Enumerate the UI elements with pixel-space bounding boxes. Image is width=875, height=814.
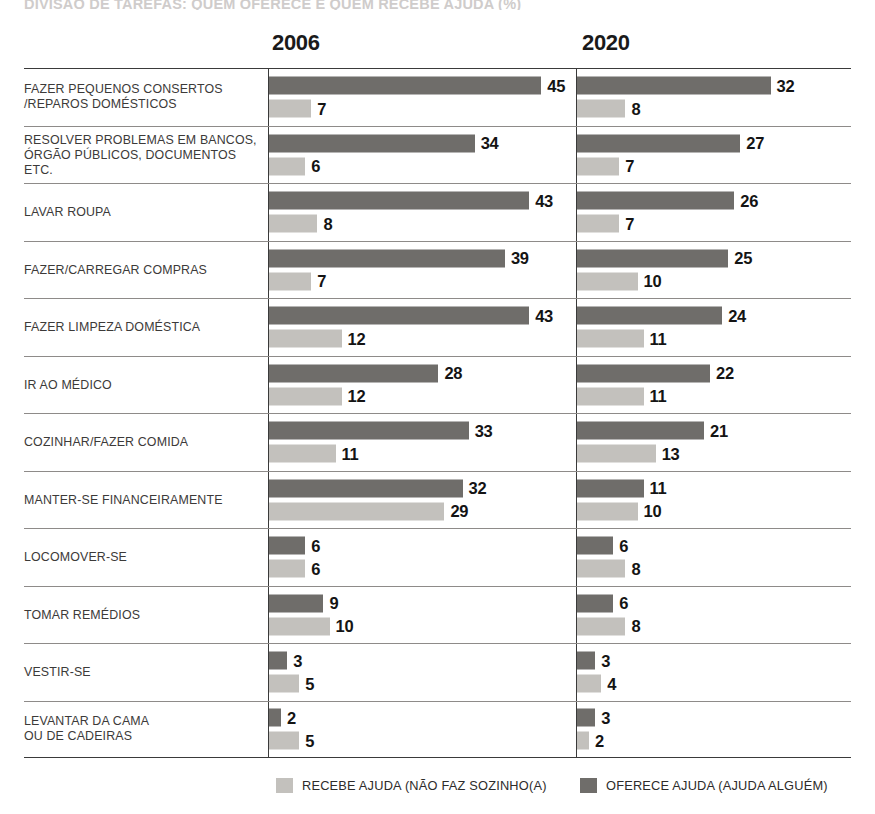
chart-row: FAZER PEQUENOS CONSERTOS/REPAROS DOMÉSTI…	[24, 68, 851, 126]
bar-line-offer: 34	[269, 134, 577, 152]
panel-2020: 68	[576, 529, 852, 586]
bar-offer-2006	[269, 77, 541, 95]
legend-label-offer: OFERECE AJUDA (AJUDA ALGUÉM)	[606, 778, 828, 793]
bar-group-2006: 457	[269, 77, 577, 118]
panel-2020: 2411	[576, 299, 852, 356]
bar-value-offer-2020: 22	[716, 364, 734, 383]
chart-row: LAVAR ROUPA438267	[24, 183, 851, 241]
bar-value-receive-2020: 10	[644, 502, 662, 521]
panel-2006: 457	[268, 69, 577, 126]
bar-line-offer: 28	[269, 364, 577, 382]
bar-group-2006: 2812	[269, 364, 577, 405]
bar-offer-2020	[577, 479, 644, 497]
panel-2006: 438	[268, 184, 577, 241]
bar-value-offer-2020: 21	[710, 421, 728, 440]
panel-2006: 3229	[268, 472, 577, 529]
bar-receive-2006	[269, 502, 444, 520]
bar-receive-2006	[269, 100, 311, 118]
bar-line-offer: 21	[577, 422, 852, 440]
bar-line-offer: 32	[577, 77, 852, 95]
row-label: VESTIR-SE	[24, 665, 264, 680]
bar-offer-2020	[577, 134, 740, 152]
bar-line-receive: 12	[269, 387, 577, 405]
panel-2006: 35	[268, 644, 577, 701]
bar-group-2006: 3229	[269, 479, 577, 520]
bar-group-2006: 397	[269, 249, 577, 290]
bar-value-offer-2020: 3	[601, 651, 610, 670]
bar-value-offer-2006: 45	[547, 76, 565, 95]
bar-receive-2006	[269, 445, 336, 463]
bar-line-receive: 10	[577, 502, 852, 520]
bar-value-receive-2006: 12	[348, 387, 366, 406]
bar-value-offer-2006: 6	[311, 536, 320, 555]
legend-label-receive: RECEBE AJUDA (NÃO FAZ SOZINHO(A)	[302, 778, 547, 793]
bar-value-offer-2006: 2	[287, 708, 296, 727]
chart-legend: RECEBE AJUDA (NÃO FAZ SOZINHO(A) OFERECE…	[24, 778, 851, 800]
bar-line-offer: 33	[269, 422, 577, 440]
bar-line-offer: 3	[577, 652, 852, 670]
bar-value-receive-2020: 8	[631, 559, 640, 578]
panel-2020: 34	[576, 644, 852, 701]
bar-line-offer: 32	[269, 479, 577, 497]
row-label: TOMAR REMÉDIOS	[24, 607, 264, 622]
bar-line-receive: 12	[269, 330, 577, 348]
bar-group-2006: 35	[269, 652, 577, 693]
bar-line-receive: 6	[269, 157, 577, 175]
bar-value-offer-2020: 24	[728, 306, 746, 325]
bar-value-receive-2020: 8	[631, 617, 640, 636]
bar-line-offer: 11	[577, 479, 852, 497]
bar-value-receive-2006: 10	[336, 617, 354, 636]
panel-2006: 4312	[268, 299, 577, 356]
chart-row: LOCOMOVER-SE6668	[24, 528, 851, 586]
bar-receive-2020	[577, 675, 601, 693]
bar-receive-2020	[577, 100, 625, 118]
bar-value-receive-2020: 11	[650, 329, 667, 348]
bar-value-offer-2006: 34	[481, 134, 499, 153]
bar-value-offer-2020: 25	[734, 249, 752, 268]
bar-receive-2006	[269, 330, 342, 348]
bar-line-receive: 11	[577, 387, 852, 405]
bar-receive-2006	[269, 387, 342, 405]
bar-offer-2006	[269, 422, 469, 440]
bar-receive-2020	[577, 502, 638, 520]
bar-receive-2020	[577, 330, 644, 348]
chart-title: DIVISÃO DE TAREFAS: QUEM OFERECE E QUEM …	[24, 0, 844, 10]
bar-value-receive-2020: 11	[650, 387, 667, 406]
bar-receive-2006	[269, 157, 305, 175]
bar-line-offer: 43	[269, 192, 577, 210]
bar-value-offer-2020: 6	[619, 536, 628, 555]
bar-line-receive: 11	[577, 330, 852, 348]
bar-value-receive-2006: 7	[317, 272, 326, 291]
bar-receive-2006	[269, 675, 299, 693]
bar-group-2020: 68	[577, 537, 852, 578]
bar-value-receive-2006: 11	[342, 444, 359, 463]
bar-offer-2006	[269, 134, 475, 152]
bar-value-receive-2006: 12	[348, 329, 366, 348]
bar-line-receive: 7	[269, 272, 577, 290]
row-label: LAVAR ROUPA	[24, 205, 264, 220]
bar-value-receive-2006: 29	[450, 502, 468, 521]
bar-receive-2006	[269, 215, 317, 233]
chart-row: FAZER/CARREGAR COMPRAS3972510	[24, 241, 851, 299]
bar-offer-2020	[577, 594, 613, 612]
bar-group-2006: 438	[269, 192, 577, 233]
panel-2006: 2812	[268, 357, 577, 414]
bar-group-2006: 66	[269, 537, 577, 578]
chart-rows-area: FAZER PEQUENOS CONSERTOS/REPAROS DOMÉSTI…	[24, 68, 851, 758]
bar-value-receive-2020: 13	[662, 444, 680, 463]
bar-line-receive: 8	[577, 100, 852, 118]
panel-2020: 68	[576, 587, 852, 644]
bar-group-2020: 328	[577, 77, 852, 118]
bar-line-receive: 8	[577, 560, 852, 578]
bar-offer-2020	[577, 422, 704, 440]
bar-value-offer-2020: 6	[619, 594, 628, 613]
legend-item-offer: OFERECE AJUDA (AJUDA ALGUÉM)	[580, 778, 828, 793]
chart-row: IR AO MÉDICO28122211	[24, 356, 851, 414]
bar-offer-2020	[577, 364, 710, 382]
bar-line-receive: 4	[577, 675, 852, 693]
chart-row: VESTIR-SE3534	[24, 643, 851, 701]
bar-offer-2020	[577, 537, 613, 555]
bar-group-2020: 267	[577, 192, 852, 233]
bar-offer-2006	[269, 537, 305, 555]
bar-value-offer-2020: 26	[740, 191, 758, 210]
